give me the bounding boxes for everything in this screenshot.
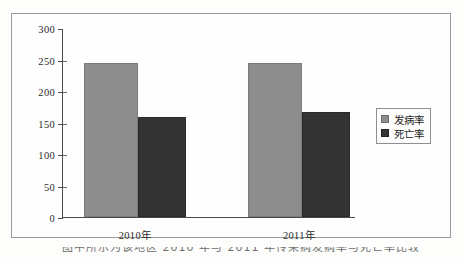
bar-2011-incidence — [248, 63, 302, 217]
x-axis-line — [62, 217, 355, 218]
y-tick-label-100: 100 — [38, 150, 55, 161]
y-tick-label-0: 0 — [49, 213, 55, 224]
x-tick-label-2010: 2010年 — [119, 227, 152, 242]
chart-legend: 发病率 死亡率 — [376, 108, 431, 144]
y-tick-label-200: 200 — [38, 87, 55, 98]
y-tick-label-300: 300 — [38, 24, 55, 35]
legend-label-mortality: 死亡率 — [394, 126, 424, 141]
bar-2010-mortality — [138, 117, 186, 217]
plot-area: 300 250 200 150 100 50 0 — [62, 29, 355, 218]
y-tick-label-250: 250 — [38, 55, 55, 66]
bar-2011-mortality — [302, 112, 350, 217]
figure-caption-strip: 图中所示为该地区 2010 年与 2011 年传染病发病率与死亡率比较 — [0, 247, 464, 263]
legend-label-incidence: 发病率 — [394, 112, 424, 127]
chart-page: 300 250 200 150 100 50 0 — [0, 0, 464, 263]
legend-item-mortality: 死亡率 — [381, 126, 424, 140]
bar-2010-incidence — [84, 63, 138, 217]
legend-swatch-mortality-icon — [381, 129, 389, 137]
legend-swatch-incidence-icon — [381, 115, 389, 123]
x-tick-label-2011: 2011年 — [283, 227, 315, 242]
legend-item-incidence: 发病率 — [381, 112, 424, 126]
figure-caption: 图中所示为该地区 2010 年与 2011 年传染病发病率与死亡率比较 — [62, 247, 420, 254]
y-tick-label-150: 150 — [38, 118, 55, 129]
y-tick-label-50: 50 — [44, 181, 55, 192]
